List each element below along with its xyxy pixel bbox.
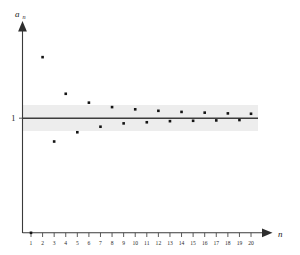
x-tick-label: 14 [179,240,185,246]
data-point [192,119,195,122]
x-tick-label: 18 [225,240,231,246]
x-tick-label: 1 [30,240,33,246]
x-tick-label: 5 [76,240,79,246]
data-point [99,125,102,128]
plot-canvas: 1234567891011121314151617181920 1 a n n [0,0,300,255]
data-point [76,131,79,134]
data-point-group [30,56,253,234]
x-tick-label: 9 [122,240,125,246]
data-point [111,106,114,109]
x-tick-label: 12 [156,240,162,246]
data-point [250,112,253,115]
data-point [180,111,183,114]
sequence-convergence-figure: 1234567891011121314151617181920 1 a n n [0,0,300,255]
x-tick-label: 13 [167,240,173,246]
data-point [122,122,125,125]
data-point [146,121,149,124]
x-tick-label: 15 [190,240,196,246]
data-point [53,140,56,143]
x-tick-label: 11 [144,240,150,246]
x-tick-label: 6 [88,240,91,246]
data-point [134,108,137,111]
x-tick-label: 20 [248,240,254,246]
data-point [227,112,230,115]
x-tick-label: 19 [237,240,243,246]
data-point [238,119,241,122]
data-point [64,92,67,95]
data-point [203,111,206,114]
y-axis-arrow-icon [18,21,27,32]
x-axis-arrow-icon [262,228,273,237]
y-axis-title: a [15,9,20,19]
y-axis-title-subscript: n [22,13,25,20]
data-point [88,101,91,104]
x-tick-label: 3 [53,240,56,246]
x-tick-label: 7 [99,240,102,246]
data-point [41,56,44,59]
y-tick-label-1: 1 [11,114,15,123]
x-tick-group [31,233,251,237]
x-tick-label-group: 1234567891011121314151617181920 [30,240,254,246]
data-point [215,119,218,122]
data-point [169,120,172,123]
x-tick-label: 17 [213,240,219,246]
data-point [157,110,160,113]
x-axis-title: n [278,229,283,239]
x-tick-label: 8 [111,240,114,246]
data-point [30,232,33,235]
x-tick-label: 4 [64,240,67,246]
x-tick-label: 16 [202,240,208,246]
x-tick-label: 2 [41,240,44,246]
x-tick-label: 10 [132,240,138,246]
